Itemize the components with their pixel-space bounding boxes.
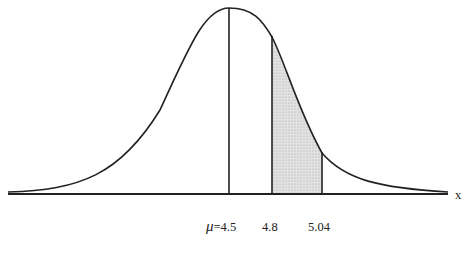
mu-symbol: μ <box>206 218 214 234</box>
mean-value: =4.5 <box>214 220 237 234</box>
mean-annotation: μ=4.5 <box>206 218 236 235</box>
x-axis-label: x <box>455 188 461 203</box>
shaded-probability-region <box>272 37 322 194</box>
tick-label-4-8: 4.8 <box>262 220 278 235</box>
bell-curve <box>8 8 448 192</box>
tick-label-5-04: 5.04 <box>308 220 330 235</box>
